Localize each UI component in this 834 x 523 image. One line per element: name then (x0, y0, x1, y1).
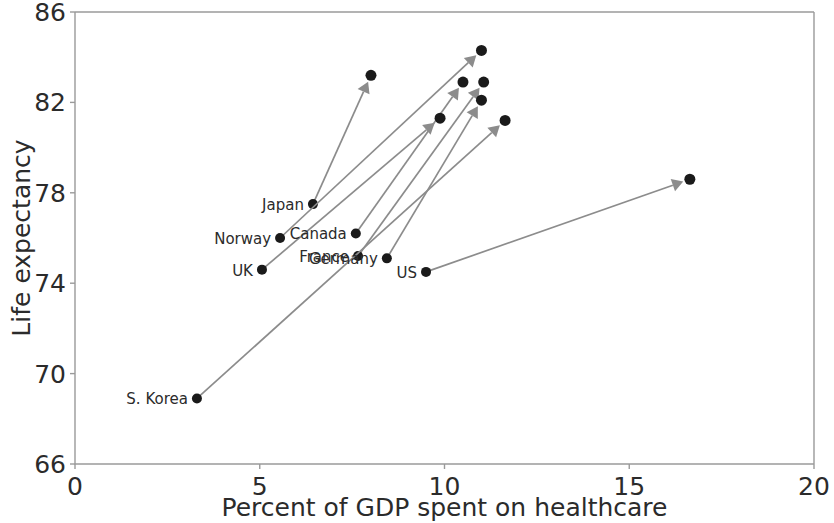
scatter-arrow-plot: 05101520667074788286Percent of GDP spent… (0, 0, 834, 523)
y-tick-label: 86 (34, 0, 66, 27)
end-point-dot (500, 115, 511, 126)
y-tick-label: 78 (34, 179, 66, 208)
start-point-dot (192, 393, 202, 403)
end-point-dot (684, 174, 695, 185)
end-point-dot (365, 70, 376, 81)
arrow-shaft (280, 63, 468, 238)
point-label-norway: Norway (214, 230, 271, 248)
start-point-dot (421, 267, 431, 277)
end-point-dot (435, 113, 446, 124)
arrow-shaft (426, 185, 673, 272)
end-point-dot (476, 45, 487, 56)
y-tick-label: 70 (34, 360, 66, 389)
point-label-japan: Japan (261, 196, 304, 214)
chart-figure: 05101520667074788286Percent of GDP spent… (0, 0, 834, 523)
end-point-dot (457, 77, 468, 88)
point-label-us: US (397, 264, 418, 282)
end-point-dot (478, 77, 489, 88)
start-point-dot (257, 265, 267, 275)
axes: 05101520667074788286Percent of GDP spent… (7, 0, 830, 522)
arrow-canada (351, 77, 469, 239)
point-label-germany: Germany (309, 250, 378, 268)
y-axis-title: Life expectancy (7, 139, 36, 336)
start-point-dot (351, 228, 361, 238)
arrow-shaft (358, 97, 473, 256)
start-point-dot (275, 233, 285, 243)
arrow-japan (308, 70, 377, 209)
arrow-germany (382, 95, 487, 264)
x-axis-title: Percent of GDP spent on healthcare (222, 493, 668, 522)
arrow-france (353, 77, 489, 262)
arrow-shaft (313, 92, 364, 204)
point-labels: JapanNorwayCanadaFranceGermanyUKUSS. Kor… (126, 196, 417, 408)
arrow-us (421, 174, 695, 277)
point-label-s-korea: S. Korea (126, 390, 188, 408)
arrow-shaft (387, 116, 472, 259)
end-point-dot (476, 95, 487, 106)
point-label-uk: UK (232, 262, 254, 280)
x-tick-label: 20 (798, 472, 830, 501)
arrow-series (192, 45, 695, 404)
start-point-dot (382, 253, 392, 263)
point-label-canada: Canada (290, 225, 347, 243)
arrow-head-icon (447, 88, 459, 101)
x-tick-label: 0 (67, 472, 83, 501)
y-tick-label: 74 (34, 269, 66, 298)
arrow-head-icon (422, 123, 435, 135)
y-tick-label: 82 (34, 88, 66, 117)
y-tick-label: 66 (34, 450, 66, 479)
